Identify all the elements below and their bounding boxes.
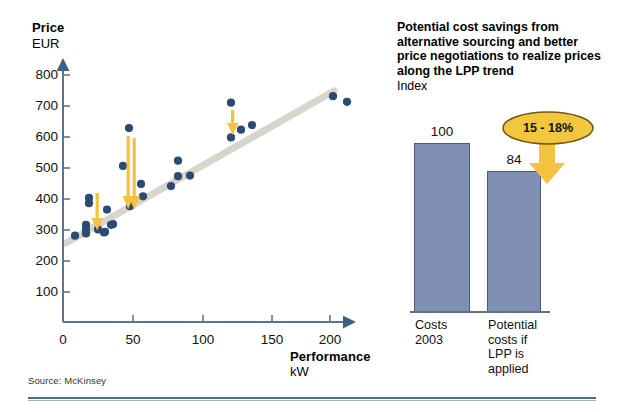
data-point [119,162,127,170]
data-point [139,192,147,200]
data-point [237,126,245,134]
data-point [71,232,79,240]
bar-caption-costs-2003: Costs 2003 [415,318,477,347]
footer-rule-secondary [28,400,596,401]
data-point [343,98,351,106]
right-chart-panel: Potential cost savings from alternative … [386,0,624,412]
down-arrow-icon [227,110,239,135]
scatter-plot-svg [0,0,386,340]
bar-costs-2003 [414,143,470,312]
x-axis-unit: kW [290,365,309,379]
source-note: Source: McKinsey [28,375,106,386]
data-point [137,180,145,188]
data-point [186,172,194,180]
data-point [227,99,235,107]
data-point [109,220,117,228]
panel-title: Potential cost savings from alternative … [397,20,609,78]
data-point [329,92,337,100]
data-point [174,157,182,165]
data-point [125,124,133,132]
data-point [227,133,235,141]
data-point [248,121,256,129]
data-point [167,182,175,190]
slide-root: Price EUR 800 700 600 500 400 300 200 10… [0,0,624,412]
left-chart-panel: Price EUR 800 700 600 500 400 300 200 10… [0,0,386,412]
footer-rule-primary [28,397,596,399]
bar-value-100: 100 [414,124,470,139]
data-point [103,206,111,214]
badge-label: 15 - 18% [518,121,578,135]
lpp-trend-line [66,91,334,243]
x-axis-title: Performance [290,350,371,364]
data-point [85,199,93,207]
data-point [82,229,90,237]
panel-subtitle: Index [397,79,427,93]
bar-caption-potential-costs: Potential costs if LPP is applied [488,318,560,376]
x-tick-marks [63,315,330,322]
data-point [174,172,182,180]
bar-baseline [410,311,550,313]
y-tick-marks [63,75,70,292]
data-point [101,228,109,236]
down-arrow-icon [129,138,141,210]
